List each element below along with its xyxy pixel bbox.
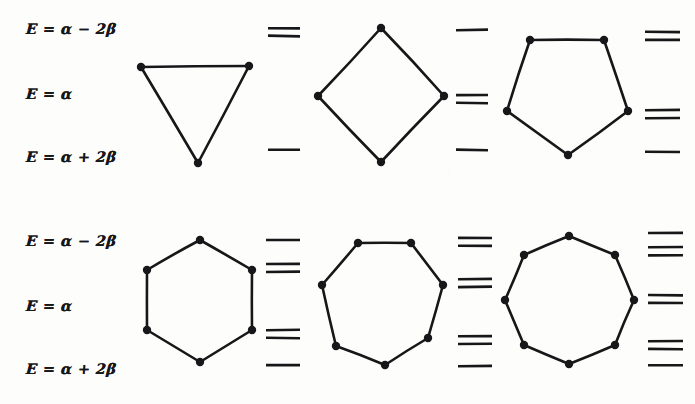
polygon-ring-cyclobutadienyl [318,28,444,162]
atom-vertex [248,326,256,334]
molecule-panel-cyclopropenyl [137,28,300,167]
atom-vertex [611,251,619,259]
atom-vertex [503,107,511,115]
atom-vertex [526,36,534,44]
atom-vertex [245,62,253,70]
energy-level-degenerate [268,36,300,37]
huckel-mo-diagram: E = α − 2β E = α E = α + 2β E = α − 2β E… [0,0,695,404]
bond-segment [322,243,358,285]
bond-segment [381,28,444,96]
atom-vertex [424,334,432,342]
bond-segment [200,330,252,362]
atom-vertices-cyclooctatetraene [501,232,638,368]
energy-level-single [456,30,488,31]
energy-level-degenerate [456,103,488,104]
atom-vertex [248,266,256,274]
energy-label-bottom-nonbonding: E = α [25,297,73,314]
atom-vertex [194,159,202,167]
atom-vertices-cyclobutadienyl [314,24,448,166]
atom-vertex [611,341,619,349]
atom-vertex [407,239,415,247]
bond-segment [569,345,615,364]
bond-segment [198,66,249,163]
bond-segment [569,236,615,255]
energy-levels-cyclopropenyl [268,28,300,149]
bond-segment [615,300,634,345]
polygon-ring-cyclopropenyl [141,66,249,163]
bond-segment [505,300,524,345]
bond-segment [524,345,569,364]
bond-segment [505,255,524,300]
atom-vertex [520,251,528,259]
atom-vertices-benzene [143,236,256,366]
bond-segment [381,96,444,162]
bond-segment [318,96,381,162]
bond-segment [507,40,530,111]
atom-vertex [564,151,572,159]
energy-levels-cyclooctatetraene [648,233,683,365]
polygon-ring-benzene [147,240,252,362]
atom-vertices-cyclopropenyl [137,62,253,167]
atom-vertex [439,281,447,289]
energy-levels-cyclobutadienyl [456,30,488,151]
energy-levels-cyclopentadienyl [645,32,680,152]
atom-vertex [354,239,362,247]
energy-levels-benzene [266,240,300,365]
bond-segment [615,255,634,300]
molecule-panel-cyclopentadienyl [503,32,680,159]
bond-segment [336,346,385,365]
atom-vertex [440,92,448,100]
bond-segment [507,111,568,155]
energy-level-single [456,150,488,151]
atom-vertices-cyclopentadienyl [503,36,632,159]
energy-label-top-nonbonding: E = α [25,85,73,102]
molecule-panel-benzene [143,236,300,366]
atom-vertex [520,341,528,349]
bond-segment [141,66,249,67]
molecule-panel-cycloheptatrienyl [318,238,492,369]
atom-vertices-cycloheptatrienyl [318,239,447,369]
atom-vertex [137,63,145,71]
polygon-ring-cycloheptatrienyl [322,243,443,365]
atom-vertex [600,36,608,44]
bond-segment [200,240,252,270]
bond-segment [147,240,200,270]
atom-vertex [501,296,509,304]
bond-segment [385,338,428,365]
atom-vertex [377,24,385,32]
bond-segment [524,236,569,255]
atom-vertex [318,281,326,289]
atom-vertex [624,107,632,115]
bond-segment [141,67,198,163]
atom-vertex [565,360,573,368]
energy-label-top-bonding: E = α + 2β [25,148,117,165]
polygon-and-levels-canvas [0,0,695,404]
row-row-top [137,24,680,167]
bond-segment [428,285,443,338]
atom-vertex [332,342,340,350]
polygon-ring-cyclopentadienyl [507,40,628,155]
atom-vertex [565,232,573,240]
row-row-bottom [143,232,683,369]
energy-label-top-antibonding: E = α − 2β [25,20,117,37]
atom-vertex [143,326,151,334]
bond-segment [568,111,628,155]
bond-segment [147,330,200,362]
atom-vertex [377,158,385,166]
energy-level-degenerate [266,338,300,339]
atom-vertex [381,361,389,369]
atom-vertex [314,92,322,100]
bond-segment [318,28,381,96]
energy-label-bottom-bonding: E = α + 2β [25,360,117,377]
atom-vertex [196,236,204,244]
molecule-panel-cyclobutadienyl [314,24,488,166]
atom-vertex [196,358,204,366]
bond-segment [322,285,336,346]
energy-label-bottom-antibonding: E = α − 2β [25,232,117,249]
molecule-panel-cyclooctatetraene [501,232,683,368]
bond-segment [411,243,443,285]
atom-vertex [630,296,638,304]
energy-levels-cycloheptatrienyl [458,238,492,366]
atom-vertex [143,266,151,274]
bond-segment [604,40,628,111]
